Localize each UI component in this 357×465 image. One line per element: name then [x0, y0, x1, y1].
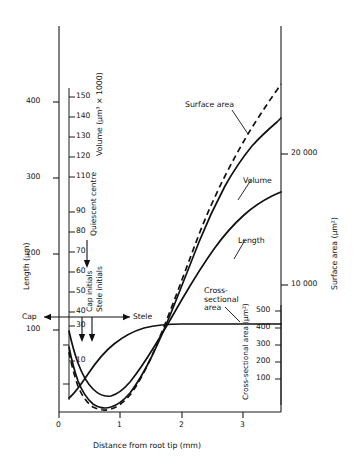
cross-sectional-curve-label: Cross- sectional area	[204, 287, 239, 313]
stele-initials-arrowhead	[89, 334, 95, 342]
csa-tick-label-500: 500	[256, 306, 270, 315]
stele-initials-label: Stele initials	[96, 266, 105, 312]
volume-curve-label: Volume	[243, 176, 272, 185]
surface-tick-label-20000: 20 000	[291, 149, 317, 158]
chart-canvas	[0, 0, 357, 465]
surface-area-leader	[232, 110, 248, 134]
length-tick-label-300: 300	[26, 173, 40, 182]
x-tick-label-2: 2	[179, 421, 184, 430]
length-tick-label-400: 400	[26, 97, 40, 106]
csa-tick-label-300: 300	[256, 340, 270, 349]
x-tick-label-1: 1	[117, 421, 122, 430]
surface-tick-label-10000: 10 000	[291, 280, 317, 289]
quiescent-centre-label: Quiescent centre	[90, 172, 99, 236]
csa-tick-label-200: 200	[256, 357, 270, 366]
cap-initials-label: Cap initials	[86, 271, 95, 312]
root-growth-chart: Length (µm) 100 200 300 400 Volume (µm³ …	[0, 0, 357, 465]
volume-tick-label-90: 90	[76, 207, 86, 216]
volume-tick-label-10: 10	[76, 356, 86, 365]
volume-tick-label-70: 70	[76, 247, 86, 256]
length-tick-label-200: 200	[26, 249, 40, 258]
cap-region-label: Cap	[22, 313, 37, 322]
surface-area-axis-ticks	[281, 154, 288, 285]
x-tick-label-3: 3	[240, 421, 245, 430]
x-axis-ticks	[59, 412, 243, 418]
volume-tick-label-130: 130	[76, 132, 90, 141]
length-curve-label: Length	[238, 236, 265, 245]
cap-left-arrowhead	[44, 314, 51, 320]
surface-area-curve-label: Surface area	[185, 100, 234, 109]
zone-annotation-group	[44, 314, 130, 342]
length-axis-ticks	[53, 102, 59, 330]
csa-tick-label-400: 400	[256, 323, 270, 332]
length-tick-label-100: 100	[26, 325, 40, 334]
cross-sectional-axis	[275, 305, 281, 405]
volume-tick-label-140: 140	[76, 112, 90, 121]
x-tick-label-0: 0	[56, 421, 61, 430]
stele-right-arrowhead	[123, 314, 130, 320]
csa-tick-label-100: 100	[256, 374, 270, 383]
volume-axis-title: Volume (µm³ × 1000)	[95, 72, 104, 156]
x-axis-title: Distance from root tip (mm)	[93, 441, 201, 450]
volume-tick-label-150: 150	[76, 92, 90, 101]
volume-tick-label-80: 80	[76, 227, 86, 236]
cross-sectional-axis-title: Cross-sectional area (µm²)	[242, 303, 251, 400]
surface-area-axis-title: Surface area (µm²)	[330, 217, 339, 290]
cap-initials-arrowhead	[79, 334, 85, 342]
volume-tick-label-120: 120	[76, 152, 90, 161]
stele-region-label: Stele	[133, 313, 152, 322]
volume-tick-label-30: 30	[76, 321, 86, 330]
